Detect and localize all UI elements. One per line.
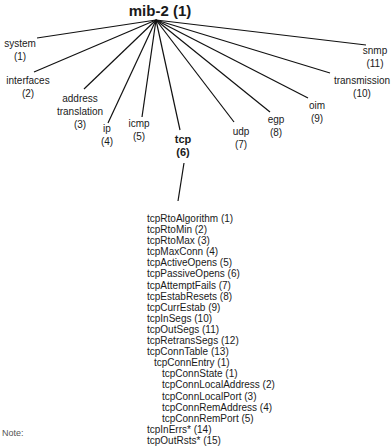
edge-system <box>37 20 156 38</box>
tcp-object: tcpCurrEstab (9) <box>147 302 275 313</box>
tcp-object: tcpRtoAlgorithm (1) <box>147 213 275 224</box>
tcp-object: tcpActiveOpens (5) <box>147 257 275 268</box>
node-tcp: tcp (6) <box>170 133 196 159</box>
tcp-object: tcpPassiveOpens (6) <box>147 268 275 279</box>
node-egp: egp (8) <box>263 113 289 139</box>
tcp-object-list: tcpRtoAlgorithm (1) tcpRtoMin (2) tcpRto… <box>147 213 275 446</box>
tcp-object: tcpEstabResets (8) <box>147 291 275 302</box>
edge-address-translation <box>84 20 156 89</box>
edge-tcp-objects <box>178 163 184 201</box>
node-ip: ip (4) <box>97 122 117 148</box>
tcp-conn-column: tcpConnState (1) <box>147 368 275 379</box>
node-icmp: icmp (5) <box>124 117 154 143</box>
tcp-object: tcpInErrs* (14) <box>147 424 275 435</box>
node-oim: oim (9) <box>304 99 330 125</box>
edge-interfaces <box>34 20 156 72</box>
tcp-object: tcpRtoMax (3) <box>147 235 275 246</box>
tcp-object: tcpAttemptFails (7) <box>147 280 275 291</box>
root-node-mib2: mib-2 (1) <box>115 2 205 19</box>
node-snmp: snmp (11) <box>360 44 390 70</box>
tcp-conn-column: tcpConnLocalPort (3) <box>147 391 275 402</box>
tcp-object: tcpOutSegs (11) <box>147 324 275 335</box>
node-transmission: transmission (10) <box>332 74 392 100</box>
tcp-object: tcpRtoMin (2) <box>147 224 275 235</box>
node-interfaces: interfaces (2) <box>4 74 52 100</box>
tcp-conn-column: tcpConnRemAddress (4) <box>147 402 275 413</box>
node-system: system (1) <box>2 37 38 63</box>
tcp-object: tcpInSegs (10) <box>147 313 275 324</box>
tcp-conn-entry: tcpConnEntry (1) <box>147 357 275 368</box>
node-udp: udp (7) <box>228 125 254 151</box>
tcp-object: tcpConnTable (13) <box>147 346 275 357</box>
note-label: Note: <box>2 428 24 438</box>
tcp-conn-column: tcpConnRemPort (5) <box>147 413 275 424</box>
tcp-conn-column: tcpConnLocalAddress (2) <box>147 379 275 390</box>
tcp-object: tcpMaxConn (4) <box>147 246 275 257</box>
tcp-object: tcpOutRsts* (15) <box>147 435 275 446</box>
tcp-object: tcpRetransSegs (12) <box>147 335 275 346</box>
edge-snmp <box>156 20 366 45</box>
